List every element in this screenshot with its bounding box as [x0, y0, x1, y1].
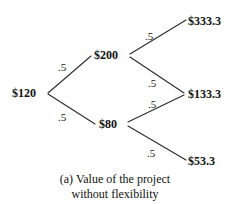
- probability-label-up-to-up-down: .5: [148, 78, 156, 89]
- figure-caption-line-2: without flexibility: [0, 187, 230, 202]
- branch-root-to-down: [48, 94, 95, 124]
- probability-label-down-to-up-down: .5: [148, 99, 156, 110]
- branch-up-to-uu: [130, 20, 186, 54]
- branch-up-to-ud: [130, 57, 184, 93]
- figure-caption-line-1: (a) Value of the project: [0, 172, 230, 187]
- branch-down-to-dd: [128, 126, 186, 160]
- node-label-root: $120: [12, 87, 36, 99]
- node-label-up-up: $333.3: [188, 15, 221, 27]
- probability-label-root-to-down: .5: [58, 112, 66, 123]
- probability-label-up-to-up-up: .5: [145, 31, 153, 42]
- event-tree-figure: $120 $200 $80 $333.3 $133.3 $53.3 .5 .5 …: [0, 0, 230, 204]
- branch-root-to-up: [48, 56, 91, 93]
- node-label-down-down: $53.3: [188, 155, 215, 167]
- probability-label-root-to-up: .5: [58, 62, 66, 73]
- node-label-up-down: $133.3: [188, 88, 221, 100]
- node-label-up: $200: [94, 49, 118, 61]
- figure-caption: (a) Value of the project without flexibi…: [0, 172, 230, 202]
- node-label-down: $80: [99, 118, 117, 130]
- probability-label-down-to-down-down: .5: [147, 148, 155, 159]
